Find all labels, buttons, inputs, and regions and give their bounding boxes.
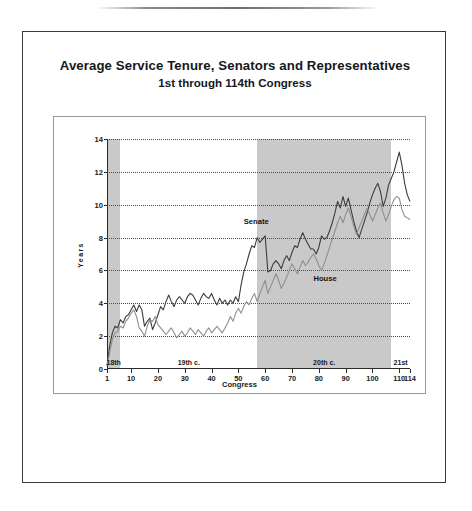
x-tick-label: 90 — [342, 374, 350, 383]
y-tick-label: 8 — [99, 233, 103, 242]
series-label-house: House — [313, 274, 336, 283]
x-tick-label: 30 — [181, 374, 189, 383]
x-tick-mark — [185, 369, 186, 373]
x-tick-label: 114 — [404, 374, 416, 383]
page-subtitle: 1st through 114th Congress — [23, 76, 447, 89]
x-tick-mark — [107, 369, 108, 373]
era-label: 21st — [394, 359, 408, 366]
series-lines — [107, 139, 410, 369]
chart-frame: Years Congress 02468101214 1102030405060… — [53, 116, 426, 394]
x-tick-mark — [410, 369, 411, 373]
figure-title-block: Average Service Tenure, Senators and Rep… — [23, 58, 447, 89]
x-tick-label: 50 — [234, 374, 242, 383]
x-tick-label: 40 — [207, 374, 215, 383]
y-tick-label: 6 — [99, 266, 103, 275]
x-tick-label: 1 — [105, 374, 109, 383]
x-tick-mark — [319, 369, 320, 373]
y-tick-label: 12 — [95, 167, 103, 176]
x-tick-label: 20 — [154, 374, 162, 383]
era-label: 20th c. — [313, 359, 335, 366]
y-axis-label: Years — [77, 242, 84, 268]
x-tick-label: 10 — [127, 374, 135, 383]
y-tick-label: 2 — [99, 332, 103, 341]
x-tick-mark — [131, 369, 132, 373]
series-label-senate: Senate — [244, 217, 269, 226]
x-tick-label: 70 — [288, 374, 296, 383]
era-label: 19th c. — [178, 359, 200, 366]
x-tick-mark — [238, 369, 239, 373]
x-tick-mark — [265, 369, 266, 373]
x-tick-mark — [292, 369, 293, 373]
x-tick-mark — [212, 369, 213, 373]
header-rule — [96, 7, 380, 9]
y-tick-label: 0 — [99, 365, 103, 374]
x-tick-mark — [346, 369, 347, 373]
x-tick-mark — [372, 369, 373, 373]
y-tick-label: 10 — [95, 200, 103, 209]
figure-card: Average Service Tenure, Senators and Rep… — [22, 31, 446, 483]
era-label: 18th — [107, 359, 121, 366]
x-tick-label: 60 — [261, 374, 269, 383]
x-tick-mark — [399, 369, 400, 373]
x-tick-label: 80 — [315, 374, 323, 383]
x-tick-label: 100 — [366, 374, 378, 383]
series-line-senate — [107, 152, 410, 366]
plot-area: 02468101214 1102030405060708090100110114… — [107, 139, 410, 369]
y-tick-label: 4 — [99, 299, 103, 308]
y-tick-label: 14 — [95, 135, 103, 144]
page-title: Average Service Tenure, Senators and Rep… — [23, 58, 447, 73]
x-tick-mark — [158, 369, 159, 373]
